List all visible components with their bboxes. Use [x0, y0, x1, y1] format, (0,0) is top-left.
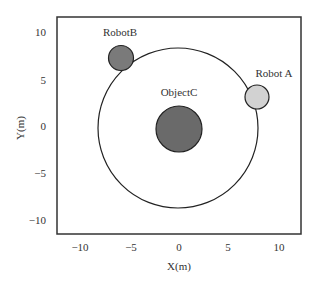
y-tick: 5	[41, 74, 47, 86]
x-tick: 5	[225, 241, 231, 253]
x-tick: 10	[274, 241, 286, 253]
robot-b-label: RobotB	[103, 26, 137, 38]
robot-b-marker	[109, 46, 134, 71]
y-tick: −10	[29, 214, 47, 226]
robot-a-marker	[245, 85, 269, 109]
object-c-marker	[156, 106, 202, 152]
object-c-label: ObjectC	[161, 86, 198, 98]
chart-canvas: RobotB Robot A ObjectC 10 5 0 −5 −10 −10…	[0, 0, 317, 286]
y-tick: −5	[34, 167, 46, 179]
y-tick: 10	[35, 26, 47, 38]
robot-a-label: Robot A	[256, 67, 293, 79]
y-tick: 0	[41, 120, 47, 132]
x-tick: −5	[125, 241, 137, 253]
x-axis-label: X(m)	[167, 260, 191, 273]
x-tick: −10	[71, 241, 89, 253]
x-tick: 0	[176, 241, 182, 253]
y-axis-label: Y(m)	[14, 116, 27, 140]
